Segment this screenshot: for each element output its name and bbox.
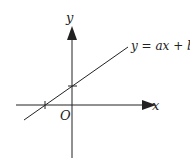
- graph-line: [24, 47, 128, 120]
- y-axis-arrow-icon: [67, 26, 77, 40]
- line-equation-label: y = ax + b: [130, 39, 190, 53]
- origin-label: O: [60, 108, 71, 123]
- x-axis-label: x: [152, 98, 160, 113]
- y-axis-label: y: [65, 10, 74, 25]
- coordinate-diagram: y x O y = ax + b: [0, 0, 190, 164]
